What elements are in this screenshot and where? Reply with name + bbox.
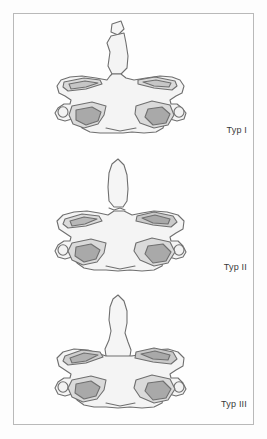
panel-label-typ-3: Typ III	[221, 399, 247, 409]
figure-root: Typ I	[0, 0, 267, 439]
left-transverse-foramen	[58, 382, 68, 392]
vertebra-diagram-typ-1	[20, 16, 210, 153]
left-transverse-foramen	[58, 107, 68, 117]
panel-label-typ-1: Typ I	[226, 125, 247, 135]
panel-label-typ-2: Typ II	[224, 262, 247, 272]
vertebra-diagram-typ-2	[20, 153, 210, 290]
figure-frame: Typ I	[13, 13, 254, 425]
right-transverse-foramen	[174, 107, 184, 117]
left-transverse-foramen	[58, 245, 68, 255]
right-transverse-foramen	[174, 382, 184, 392]
panel-typ-1: Typ I	[14, 16, 255, 153]
dens-process	[108, 159, 128, 207]
dens-process	[107, 33, 128, 74]
dens-process	[105, 295, 131, 359]
panel-typ-2: Typ II	[14, 153, 255, 290]
right-transverse-foramen	[174, 245, 184, 255]
fracture-line-dens-base	[109, 208, 125, 210]
panel-typ-3: Typ III	[14, 290, 255, 427]
vertebra-diagram-typ-3	[20, 290, 210, 427]
